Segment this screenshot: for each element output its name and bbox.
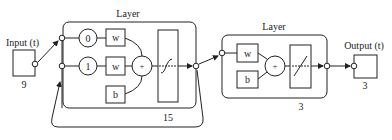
input-block: [13, 50, 35, 76]
input-port: [32, 61, 38, 67]
hidden-output-port: [193, 63, 199, 69]
output-layer-output-port: [324, 63, 330, 69]
output-layer-size: 3: [299, 101, 304, 112]
hidden-layer-frame: [63, 22, 196, 108]
output-layer-input-port: [219, 50, 225, 56]
input-label: Input (t): [6, 37, 39, 49]
output-block: [354, 55, 377, 78]
hidden-port-0: [59, 35, 65, 41]
hidden-layer-size: 15: [163, 112, 173, 123]
hidden-port-1: [59, 63, 65, 69]
sum-hidden-symbol: +: [140, 62, 145, 71]
weight0-to-sum: [125, 38, 142, 56]
hidden-layer-title: Layer: [116, 8, 140, 19]
bias-to-sum: [125, 76, 142, 94]
output-size: 3: [363, 80, 368, 91]
output-label: Output (t): [344, 40, 384, 52]
rnn-diagram: Input (t) 9 Layer 15 0 1 w w b + Layer 3…: [0, 0, 392, 140]
output-port: [351, 63, 357, 69]
delay-tap-0-label: 0: [86, 33, 91, 44]
delay-tap-1-label: 1: [86, 61, 91, 72]
weight-output-label: w: [244, 48, 252, 59]
bias-hidden-label: b: [113, 89, 118, 100]
sum-output-symbol: +: [273, 62, 278, 71]
weight-1-label: w: [112, 61, 120, 72]
output-layer-title: Layer: [262, 21, 286, 32]
input-connection: [38, 41, 58, 62]
input-size: 9: [22, 79, 27, 90]
hidden-to-output-connection: [199, 56, 218, 64]
weight-0-label: w: [112, 32, 120, 43]
feedback-loop: [52, 70, 204, 127]
bias-output-label: b: [245, 74, 250, 85]
